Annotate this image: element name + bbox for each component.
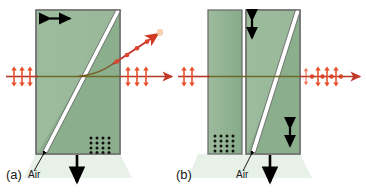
panel-b-air-label: Air — [236, 170, 248, 180]
panel-a-air-label: Air — [28, 170, 40, 180]
panel-b-input-beam — [178, 66, 210, 86]
panel-a — [6, 10, 172, 182]
panel-b-label: (b) — [176, 168, 192, 181]
panel-a-label: (a) — [6, 168, 22, 181]
optics-figure — [0, 0, 366, 192]
panel-b-left-plate — [208, 10, 242, 154]
panel-a-output-beam-straight — [120, 66, 172, 86]
panel-b — [178, 10, 360, 182]
panel-b-output-beam — [300, 66, 360, 86]
panel-a-input-beam — [6, 66, 38, 86]
